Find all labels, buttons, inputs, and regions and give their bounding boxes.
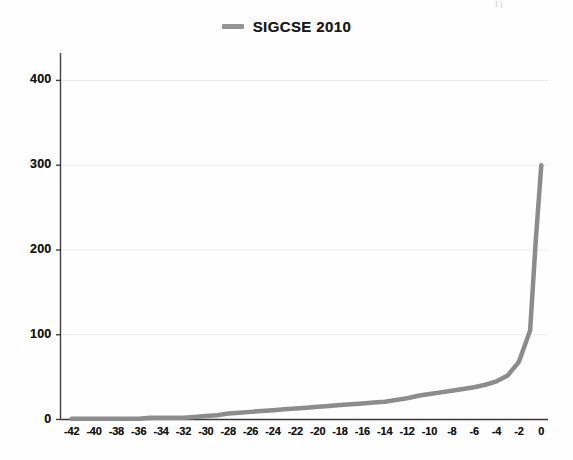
y-tick-label: 300 xyxy=(30,157,51,171)
plot-svg xyxy=(0,0,573,460)
gridlines xyxy=(61,80,549,334)
chart-figure: 1) SIGCSE 2010 0100200300400 -42-40-38-3… xyxy=(0,0,573,460)
y-tick-label: 400 xyxy=(30,72,51,86)
x-tick-label: 0 xyxy=(527,425,555,437)
y-tick-label: 0 xyxy=(44,412,51,426)
axis-lines xyxy=(56,53,548,420)
y-tick-label: 100 xyxy=(30,327,51,341)
plot-area: 0100200300400 -42-40-38-36-34-32-30-28-2… xyxy=(0,0,573,460)
series-line-sigcse-2010 xyxy=(72,165,542,418)
y-tick-label: 200 xyxy=(30,242,51,256)
series-lines xyxy=(72,165,542,418)
